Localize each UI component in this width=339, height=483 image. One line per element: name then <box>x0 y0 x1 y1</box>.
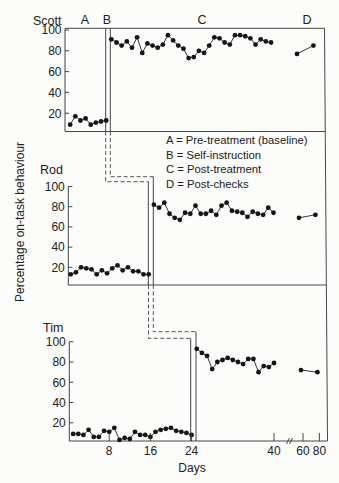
scott-phase-c-data-point <box>119 43 124 48</box>
legend-item-b: B = Self-instruction <box>166 149 261 161</box>
rod-tim-dashed-connector-outer <box>149 285 191 338</box>
tim-y-tick-label: 40 <box>52 396 66 410</box>
tim-phase-a-data-point <box>117 438 122 443</box>
rod-phase-c-data-point <box>250 209 255 214</box>
scott-phase-c-data-point <box>160 42 165 47</box>
rod-phase-a-data-point <box>141 272 146 277</box>
scott-phase-c-data-point <box>130 45 135 50</box>
tim-phase-a-data-point <box>143 433 148 438</box>
phase-header-d: D <box>302 13 311 27</box>
tim-phase-a-data-point <box>138 433 143 438</box>
multiple-baseline-figure: A B C D A = Pre-treatment (baseline) B =… <box>0 0 339 483</box>
legend-item-d: D = Post-checks <box>166 178 249 190</box>
scott-phase-a-data-point <box>68 122 73 127</box>
tim-phase-d-line-segment <box>301 370 317 372</box>
scott-phase-a-data-point <box>94 120 99 125</box>
rod-phase-c-data-point <box>198 211 203 216</box>
rod-panel-label: Rod <box>40 163 63 177</box>
rod-phase-c-data-point <box>204 211 209 216</box>
scott-y-tick-label: 60 <box>48 65 62 79</box>
scott-phase-c-data-point <box>181 46 186 51</box>
scott-phase-c-data-point <box>124 39 129 44</box>
tim-phase-c-data-point <box>256 370 261 375</box>
scott-phase-c-data-point <box>263 39 268 44</box>
tim-phase-c-data-point <box>266 365 271 370</box>
rod-phase-c-data-point <box>162 200 167 205</box>
tim-phase-c-data-point <box>215 360 220 365</box>
tim-phase-a-data-point <box>127 437 132 442</box>
legend-item-c: C = Post-treatment <box>166 163 262 175</box>
legend: A = Pre-treatment (baseline) B = Self-in… <box>166 134 308 190</box>
tim-phase-a-data-point <box>179 429 184 434</box>
scott-phase-c-data-point <box>140 50 145 55</box>
tim-phase-a-data-point <box>184 430 189 435</box>
tim-phase-a-data-point <box>169 425 174 430</box>
rod-phase-a-data-point <box>146 272 151 277</box>
scott-rod-dashed-connector-inner <box>110 132 153 177</box>
rod-phase-c-data-point <box>183 210 188 215</box>
tim-phase-c-data-point <box>220 358 225 363</box>
scott-phase-c-data-point <box>222 40 227 45</box>
scott-y-tick-label: 20 <box>48 107 62 121</box>
rod-phase-c-data-point <box>178 217 183 222</box>
rod-y-tick-label: 80 <box>51 200 65 214</box>
x-tick-label: 8 <box>106 444 113 458</box>
tim-phase-a-data-point <box>133 429 138 434</box>
rod-phase-c-data-point <box>235 209 240 214</box>
scott-phase-c-data-point <box>248 36 253 41</box>
scott-phase-c-data-point <box>135 35 140 40</box>
scott-phase-a-data-point <box>73 114 78 119</box>
tim-phase-c-data-point <box>205 354 210 359</box>
rod-phase-a-data-point <box>74 270 79 275</box>
legend-item-a: A = Pre-treatment (baseline) <box>166 134 308 146</box>
rod-phase-c-data-point <box>224 200 229 205</box>
phase-header-a: A <box>81 13 90 27</box>
tim-phase-c-data-point <box>272 361 277 366</box>
rod-phase-c-data-point <box>157 205 162 210</box>
scott-phase-c-data-point <box>155 45 160 50</box>
x-tick-label: 80 <box>313 444 327 458</box>
rod-phase-a-data-point <box>79 265 84 270</box>
scott-y-tick-label: 80 <box>48 44 62 58</box>
rod-phase-c-data-point <box>256 211 261 216</box>
rod-phase-c-data-point <box>193 203 198 208</box>
scott-phase-c-data-point <box>212 35 217 40</box>
scott-phase-c-data-point <box>191 55 196 60</box>
scott-phase-c-data-point <box>150 43 155 48</box>
rod-phase-a-data-point <box>115 263 120 268</box>
rod-phase-d-line-segment <box>299 215 315 218</box>
rod-phase-c-data-point <box>167 211 172 216</box>
scott-phase-c-data-point <box>238 33 243 38</box>
phase-header-b: B <box>103 13 111 27</box>
scott-phase-c-data-point <box>145 41 150 46</box>
rod-phase-c-data-point <box>172 215 177 220</box>
rod-phase-a-data-point <box>131 269 136 274</box>
scott-phase-c-data-point <box>171 38 176 43</box>
tim-phase-c-data-point <box>246 357 251 362</box>
tim-phase-a-data-point <box>158 427 163 432</box>
scott-phase-c-line-segment <box>137 37 142 53</box>
tim-phase-c-data-point <box>230 358 235 363</box>
x-tick-label: 60 <box>296 444 310 458</box>
tim-phase-c-data-point <box>261 364 266 369</box>
tim-panel-label: Tim <box>43 321 63 335</box>
rod-phase-a-data-point <box>105 271 110 276</box>
scott-y-tick-label: 100 <box>41 23 61 37</box>
rod-y-tick-label: 100 <box>45 180 65 194</box>
scott-phase-a-data-point <box>78 118 83 123</box>
scott-phase-a-data-point <box>83 116 88 121</box>
phase-header-c: C <box>197 13 206 27</box>
rod-phase-c-data-point <box>266 205 271 210</box>
tim-phase-c-data-point <box>225 356 230 361</box>
rod-phase-a-data-point <box>120 268 125 273</box>
tim-y-tick-label: 20 <box>52 416 66 430</box>
rod-phase-c-data-point <box>230 208 235 213</box>
tim-phase-a-data-point <box>76 431 81 436</box>
rod-phase-c-data-point <box>214 212 219 217</box>
rod-phase-a-data-point <box>126 265 131 270</box>
rod-phase-a-data-point <box>100 268 105 273</box>
tim-phase-d-data-point <box>315 370 320 375</box>
scott-phase-c-data-point <box>114 40 119 45</box>
tim-y-tick-label: 100 <box>46 335 66 349</box>
y-axis-title: Percentage on-task behaviour <box>13 142 27 302</box>
